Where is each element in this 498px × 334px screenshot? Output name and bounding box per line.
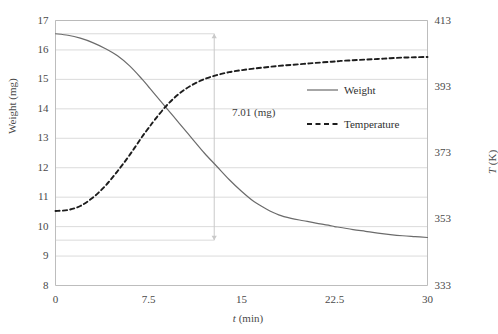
x-axis-unit: (min) [239,312,263,324]
measurement-arrow [56,34,217,240]
y-tick-right-353: 353 [435,213,452,224]
y-tick-right-333: 333 [435,280,452,291]
y-axis-right-unit: (K) [486,150,498,165]
plot-frame [56,21,428,286]
y-axis-right-symbol: T [486,168,498,174]
y-tick-left-9: 9 [43,250,49,261]
annotation-weight-loss: 7.01 (mg) [232,106,275,118]
x-axis-title: t (min) [0,312,496,324]
y-tick-right-373: 373 [435,147,452,158]
series-line-weight [56,34,428,238]
y-axis-right-title: T (K) [486,158,498,174]
x-tick-0: 0 [36,294,76,305]
legend-line-samples [307,90,338,124]
x-tick-30: 30 [408,294,448,305]
legend-label-temperature: Temperature [344,118,399,130]
y-tick-left-8: 8 [43,280,49,291]
legend-label-weight: Weight [344,84,376,96]
y-tick-right-393: 393 [435,81,452,92]
y-tick-left-12: 12 [38,162,49,173]
x-tick-7.5: 7.5 [129,294,169,305]
gridlines [56,21,428,257]
y-tick-left-15: 15 [38,73,49,84]
y-tick-left-16: 16 [38,44,49,55]
y-tick-left-13: 13 [38,132,49,143]
y-tick-left-14: 14 [38,103,49,114]
y-axis-right-unit-spacer [486,165,498,168]
y-tick-right-413: 413 [435,15,452,26]
x-tick-22.5: 22.5 [315,294,355,305]
y-tick-left-17: 17 [38,15,49,26]
y-axis-left-title: Weight (mg) [6,118,18,134]
data-series [56,34,428,238]
y-tick-left-10: 10 [38,221,49,232]
series-line-temperature [56,57,428,211]
y-tick-left-11: 11 [38,191,49,202]
x-tick-15: 15 [222,294,262,305]
